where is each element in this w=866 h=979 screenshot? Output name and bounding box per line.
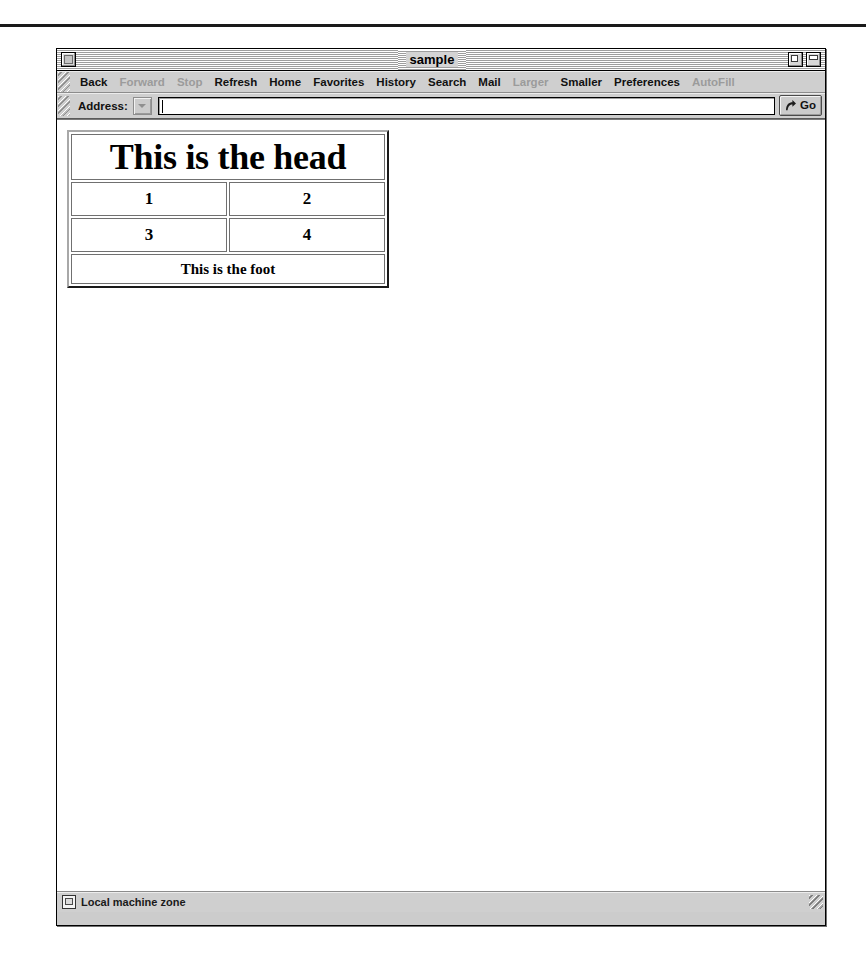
table-head-row: This is the head	[71, 134, 385, 180]
table-cell-4: 4	[229, 218, 385, 252]
table-head: This is the head	[71, 134, 385, 180]
table-cell-3: 3	[71, 218, 227, 252]
table-cell-1: 1	[71, 182, 227, 216]
security-zone-label: Local machine zone	[81, 896, 186, 908]
window-titlebar[interactable]: sample	[57, 49, 825, 71]
zoom-box-icon[interactable]	[788, 52, 803, 67]
table-foot: This is the foot	[71, 254, 385, 284]
window-title-text: sample	[406, 52, 459, 67]
text-caret	[162, 100, 163, 113]
toolbar-button-mail[interactable]: Mail	[472, 74, 506, 90]
table-foot-row: This is the foot	[71, 254, 385, 284]
toolbar-button-history[interactable]: History	[370, 74, 422, 90]
toolbar-drag-handle[interactable]	[58, 72, 70, 92]
table-row: 1 2	[71, 182, 385, 216]
address-input[interactable]	[158, 97, 775, 115]
table-row: 3 4	[71, 218, 385, 252]
collapse-box-icon[interactable]	[806, 52, 821, 67]
browser-window: sample Back Forward Stop Refresh Home Fa…	[56, 48, 826, 926]
toolbar-button-home[interactable]: Home	[263, 74, 307, 90]
address-bar-drag-handle[interactable]	[58, 96, 70, 116]
address-bar: Address: Go	[57, 93, 825, 119]
toolbar-button-favorites[interactable]: Favorites	[307, 74, 370, 90]
computer-zone-icon	[62, 895, 76, 909]
table-body: 1 2 3 4	[71, 182, 385, 252]
address-label: Address:	[70, 100, 133, 112]
address-history-chevron-down-icon[interactable]	[133, 97, 152, 115]
toolbar-items: Back Forward Stop Refresh Home Favorites…	[70, 74, 741, 90]
toolbar-button-search[interactable]: Search	[422, 74, 472, 90]
table-cell-2: 2	[229, 182, 385, 216]
toolbar-button-stop: Stop	[171, 74, 209, 90]
toolbar-button-larger: Larger	[507, 74, 555, 90]
page-scan-rule	[0, 24, 866, 27]
toolbar-button-preferences[interactable]: Preferences	[608, 74, 686, 90]
resize-grip-icon[interactable]	[809, 895, 823, 909]
window-title: sample	[398, 50, 467, 70]
table-head-cell: This is the head	[71, 134, 385, 180]
go-button[interactable]: Go	[779, 95, 822, 116]
toolbar-button-forward: Forward	[114, 74, 171, 90]
go-button-label: Go	[800, 99, 816, 112]
toolbar-button-back[interactable]: Back	[74, 74, 114, 90]
close-box-icon[interactable]	[61, 52, 76, 67]
sample-table: This is the head 1 2 3 4 This is the foo…	[67, 130, 389, 288]
curved-arrow-icon	[784, 99, 797, 112]
toolbar-button-smaller[interactable]: Smaller	[555, 74, 609, 90]
page-content-area: This is the head 1 2 3 4 This is the foo…	[57, 119, 825, 892]
main-toolbar: Back Forward Stop Refresh Home Favorites…	[57, 71, 825, 93]
table-foot-cell: This is the foot	[71, 254, 385, 284]
window-buttons	[788, 52, 821, 67]
status-bar: Local machine zone	[57, 892, 825, 912]
toolbar-button-refresh[interactable]: Refresh	[208, 74, 263, 90]
toolbar-button-autofill: AutoFill	[686, 74, 741, 90]
